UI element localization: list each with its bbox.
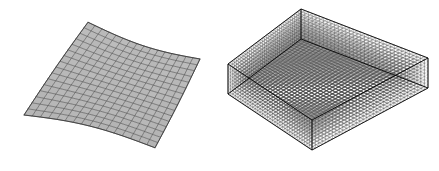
volume-mesh-panel (219, 0, 439, 171)
volume-mesh-graphic (219, 0, 439, 171)
surface-mesh-graphic (0, 0, 219, 171)
mesh-figure (0, 0, 439, 171)
surface-mesh-panel (0, 0, 219, 171)
